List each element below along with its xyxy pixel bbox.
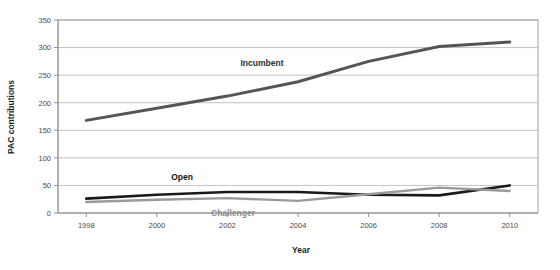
x-tick-label-2006: 2006: [360, 221, 377, 230]
x-tick-label-2000: 2000: [148, 221, 165, 230]
y-tick-label-50: 50: [43, 181, 51, 190]
x-tick-label-2010: 2010: [501, 221, 518, 230]
chart-screenshot: 050100150200250300350 199820002002200420…: [0, 0, 560, 270]
y-tick-label-200: 200: [38, 99, 51, 108]
y-axis-title: PAC contributions: [6, 80, 16, 154]
series-label-incumbent: Incumbent: [241, 58, 284, 68]
y-tick-label-300: 300: [38, 43, 51, 52]
series-label-challenger: Challenger: [211, 208, 256, 218]
x-tick-label-2004: 2004: [290, 221, 307, 230]
y-tick-label-250: 250: [38, 71, 51, 80]
x-axis-title: Year: [292, 245, 311, 255]
line-chart: 050100150200250300350 199820002002200420…: [0, 0, 560, 270]
x-tick-label-2008: 2008: [431, 221, 448, 230]
x-tick-label-2002: 2002: [219, 221, 236, 230]
x-tick-label-1998: 1998: [78, 221, 95, 230]
y-tick-label-0: 0: [47, 209, 51, 218]
y-tick-label-100: 100: [38, 154, 51, 163]
y-tick-label-150: 150: [38, 126, 51, 135]
y-tick-label-350: 350: [38, 16, 51, 25]
series-label-open: Open: [171, 172, 193, 182]
